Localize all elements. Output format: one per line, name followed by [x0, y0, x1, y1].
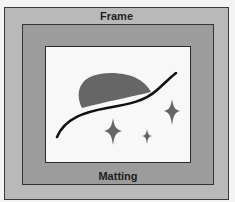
star-large-icon	[104, 118, 122, 145]
star-small-icon	[142, 129, 153, 144]
star-tall-icon	[164, 99, 180, 125]
matting-label: Matting	[23, 170, 213, 182]
frame-label: Frame	[5, 10, 228, 22]
artwork-illustration	[45, 46, 191, 163]
artwork-blob	[79, 73, 151, 108]
picture-artwork	[45, 46, 191, 163]
